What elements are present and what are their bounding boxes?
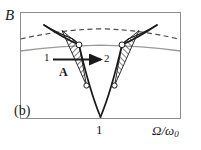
state-label-end: 2 [104,53,110,64]
x-tick-label-1: 1 [96,123,103,136]
left-upper-node-marker [76,42,82,48]
right-upper-node-marker [119,42,125,48]
axis-label-x: Ω/ω0 [152,124,179,139]
axis-label-x-subscript: 0 [174,129,179,139]
region-label-a: A [59,66,68,78]
state-label-start: 1 [44,52,50,63]
panel-label: (b) [14,104,30,118]
right-lower-node-marker [112,83,117,88]
axis-label-y: B [5,8,14,23]
axis-label-x-main: Ω/ω [152,123,174,138]
figure-panel-b: B Ω/ω0 1 (b) 1 2 A [0,0,201,150]
left-lower-node-marker [84,83,89,88]
